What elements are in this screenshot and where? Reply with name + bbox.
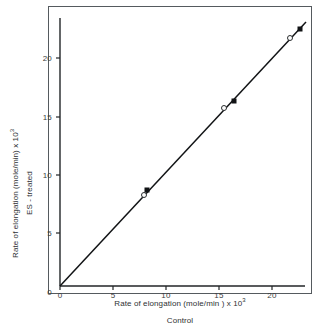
y-axis-title-exponent: 3 [9, 129, 15, 132]
data-point-filled-square [145, 188, 150, 193]
y-tick-label: 20 [36, 54, 52, 63]
chart-figure: 0 5 10 15 20 0 5 10 15 20 Rate of elonga… [0, 0, 317, 327]
identity-line [60, 22, 306, 286]
axes-and-data [0, 0, 317, 327]
data-point-filled-square [232, 99, 237, 104]
y-tick-label: 10 [36, 171, 52, 180]
x-axis-title-text: Rate of elongation (mole/min ) x 10 [114, 299, 242, 308]
x-axis-title-group: Rate of elongation (mole/min ) x 103 Con… [48, 299, 312, 325]
y-axis-title-text: Rate of elongation (mole/min) x 10 [11, 132, 20, 258]
y-tick-label: 0 [40, 288, 52, 297]
y-tick-label: 15 [36, 113, 52, 122]
x-axis-title: Rate of elongation (mole/min ) x 103 [48, 299, 312, 308]
x-axis-title-exponent: 3 [242, 297, 245, 303]
data-point-open-circle [141, 192, 147, 198]
y-axis-subtitle: ES - treated [25, 171, 34, 215]
data-point-open-circle [221, 105, 227, 111]
y-axis-title: Rate of elongation (mole/min) x 103 [11, 129, 20, 258]
data-point-filled-square [298, 27, 303, 32]
y-tick-label: 5 [40, 229, 52, 238]
x-axis-subtitle: Control [48, 316, 312, 325]
data-point-open-circle [287, 35, 293, 41]
